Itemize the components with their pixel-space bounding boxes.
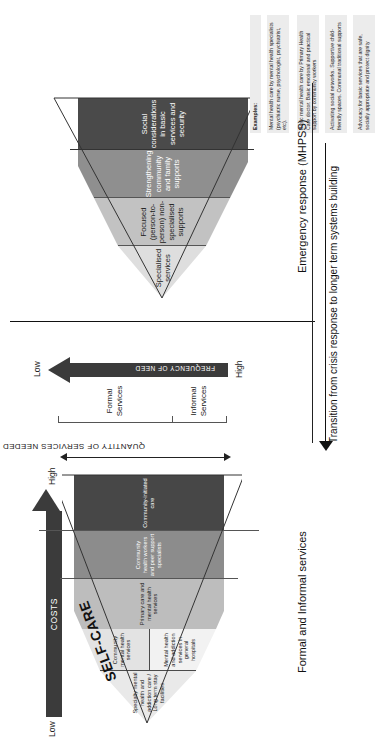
costs-arrow-head — [32, 489, 60, 511]
transition-caption: Transition from crisis response to longe… — [328, 166, 339, 443]
informal-services-label: Informal Services — [172, 386, 226, 416]
block-divider — [10, 321, 315, 322]
quantity-axis-label: QUANTITY OF SERVICES NEEDED — [2, 442, 145, 451]
examples-heading-box: Examples: — [250, 15, 261, 133]
example-text: Advocacy for basic services that are saf… — [357, 18, 371, 130]
costs-arrow-label: COSTS — [49, 511, 59, 717]
quantity-axis-head-bottom — [224, 453, 231, 461]
frequency-arrow-head — [48, 357, 70, 383]
emergency-response-label: Emergency response (MHPSS) — [296, 120, 308, 273]
quantity-axis-line — [66, 457, 224, 458]
example-box-basic-services: Advocacy for basic services that are saf… — [353, 15, 375, 133]
formal-services-label: Formal Services — [58, 386, 172, 416]
costs-high-end-label: High — [47, 468, 57, 485]
formal-informal-services-label: Formal and Informal services — [296, 531, 308, 673]
service-bracket-tick-bottom — [226, 416, 227, 423]
example-box-community-family: Activating social networks. Supportive c… — [325, 15, 347, 133]
service-bracket-spine — [58, 422, 226, 423]
frequency-arrow-label: FREQUENCY OF NEED — [135, 365, 215, 372]
service-bracket-tick-mid — [172, 416, 173, 423]
transition-rule — [312, 83, 313, 443]
example-text: Mental health care by mental health spec… — [268, 18, 288, 130]
frequency-high-end-label: High — [234, 361, 244, 378]
formal-services-text: Formal Services — [105, 386, 125, 417]
example-box-focused: Basic mental health care by Primary Heal… — [297, 15, 319, 133]
quantity-axis-head-top — [60, 453, 67, 461]
transition-arrow-line — [325, 143, 326, 443]
example-box-specialised: Mental health care by mental health spec… — [267, 15, 289, 133]
example-text: Basic mental health care by Primary Heal… — [298, 18, 318, 130]
mhpss-pyramid-outline — [44, 83, 264, 298]
pyramid-outline — [62, 453, 242, 723]
service-bracket-tick-top — [58, 416, 59, 423]
examples-heading-text: Examples: — [252, 103, 259, 130]
informal-services-text: Informal Services — [189, 386, 209, 417]
frequency-low-end-label: Low — [32, 361, 42, 377]
costs-low-end-label: Low — [47, 721, 57, 737]
example-text: Activating social networks. Supportive c… — [329, 18, 343, 130]
